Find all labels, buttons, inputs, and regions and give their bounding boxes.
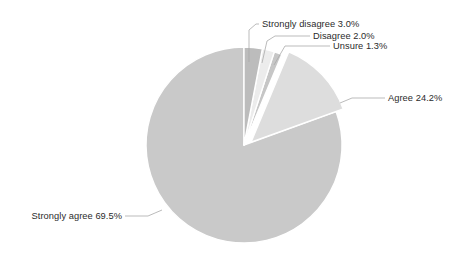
pie-chart-canvas: Strongly disagree 3.0% Disagree 2.0% Uns… (0, 0, 459, 256)
leader-line-strongly-agree (125, 210, 162, 216)
pie-chart-figure: Strongly disagree 3.0% Disagree 2.0% Uns… (0, 0, 459, 256)
pie-label-strongly-disagree: Strongly disagree 3.0% (262, 19, 359, 29)
pie-label-unsure: Unsure 1.3% (333, 41, 387, 51)
pie-label-strongly-agree: Strongly agree 69.5% (32, 211, 122, 221)
leader-line-agree (340, 98, 385, 103)
pie-label-disagree: Disagree 2.0% (313, 31, 375, 41)
pie-label-agree: Agree 24.2% (388, 93, 442, 103)
pie-slices (146, 47, 343, 243)
